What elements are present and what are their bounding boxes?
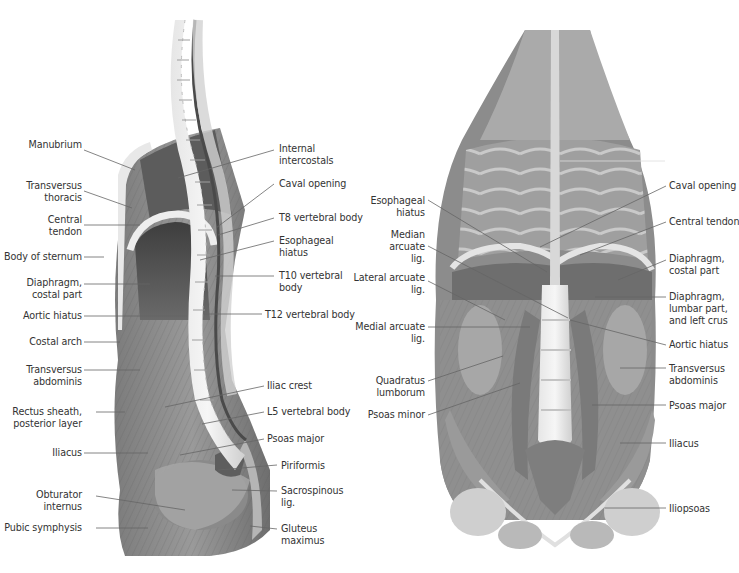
label-iliacus: Iliacus (52, 447, 82, 459)
label-esophageal-hiatus: Esophagealhiatus (279, 235, 334, 259)
label-iliopsoas: Iliopsoas (669, 503, 710, 515)
label-body-of-sternum: Body of sternum (4, 251, 82, 263)
label-central-tendon: Centraltendon (48, 214, 82, 238)
label-psoas-major: Psoas major (267, 433, 324, 445)
label-l5-vertebral-body: L5 vertebral body (267, 406, 350, 418)
label-sacrospinous-lig: Sacrospinouslig. (281, 485, 343, 509)
label-diaphragm-costal-part-anterior: Diaphragm,costal part (669, 253, 724, 277)
label-iliacus-anterior: Iliacus (669, 438, 699, 450)
label-rectus-sheath: Rectus sheath,posterior layer (12, 406, 82, 430)
anterior-view-figure (435, 30, 660, 549)
label-t8-vertebral-body: T8 vertebral body (279, 212, 363, 224)
label-aortic-hiatus: Aortic hiatus (23, 310, 82, 322)
lateral-view-figure (114, 20, 270, 556)
label-caval-opening-anterior: Caval opening (669, 180, 736, 192)
label-transversus-abdominis: Transversusabdominis (26, 364, 82, 388)
label-aortic-hiatus-anterior: Aortic hiatus (669, 339, 728, 351)
label-transversus-thoracis: Transversusthoracis (26, 180, 82, 204)
label-costal-arch: Costal arch (29, 336, 82, 348)
label-diaphragm-lumbar-part: Diaphragm,lumbar part,and left crus (669, 291, 728, 327)
label-psoas-minor: Psoas minor (368, 409, 425, 421)
label-central-tendon-anterior: Central tendon (669, 216, 739, 228)
label-manubrium: Manubrium (28, 139, 82, 151)
label-median-arcuate-lig: Medianarcuatelig. (389, 229, 425, 265)
label-gluteus-maximus: Gluteusmaximus (281, 523, 324, 547)
label-medial-arcuate-lig: Medial arcuatelig. (355, 321, 425, 345)
label-lateral-arcuate-lig: Lateral arcuatelig. (354, 272, 425, 296)
label-internal-intercostals: Internalintercostals (279, 143, 333, 167)
label-psoas-major-anterior: Psoas major (669, 400, 726, 412)
label-t12-vertebral-body: T12 vertebral body (265, 309, 355, 321)
label-diaphragm-costal-part: Diaphragm,costal part (27, 277, 82, 301)
label-t10-vertebral-body: T10 vertebralbody (279, 270, 343, 294)
label-quadratus-lumborum: Quadratuslumborum (376, 375, 425, 399)
label-pubic-symphysis: Pubic symphysis (4, 522, 82, 534)
label-piriformis: Piriformis (281, 460, 325, 472)
label-iliac-crest: Iliac crest (267, 380, 312, 392)
label-esophageal-hiatus-anterior: Esophagealhiatus (370, 195, 425, 219)
label-transversus-abdominis-anterior: Transversusabdominis (669, 363, 725, 387)
label-caval-opening: Caval opening (279, 178, 346, 190)
label-obturator-internus: Obturatorinternus (36, 489, 82, 513)
